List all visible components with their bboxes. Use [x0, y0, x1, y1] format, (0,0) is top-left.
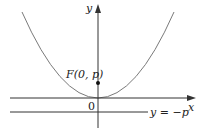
focus-label: F(0, p) [65, 68, 103, 81]
focus-point [96, 81, 100, 85]
y-axis-arrow-icon [95, 4, 101, 13]
x-axis-label: x [188, 101, 195, 114]
parabola-diagram: y x 0 F(0, p) y = −p [0, 0, 203, 139]
origin-label: 0 [88, 100, 95, 113]
directrix-label: y = −p [149, 106, 189, 119]
y-axis-label: y [85, 2, 93, 15]
